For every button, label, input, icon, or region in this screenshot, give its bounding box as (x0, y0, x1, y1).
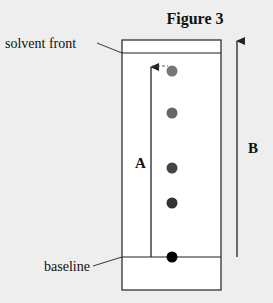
spot-2 (167, 108, 178, 119)
arrow-b-label: B (248, 140, 258, 156)
chromatography-diagram: Figure 3 solvent front baseline A B (0, 0, 273, 303)
spot-1 (167, 66, 178, 77)
spot-3 (167, 163, 178, 174)
figure-title: Figure 3 (166, 10, 223, 28)
baseline-leader (93, 257, 122, 266)
baseline-label: baseline (44, 259, 90, 274)
arrow-a-label: A (135, 155, 146, 171)
solvent-front-label: solvent front (5, 36, 76, 51)
spot-5 (167, 252, 178, 263)
spot-4 (167, 198, 178, 209)
solvent-front-leader (97, 43, 122, 53)
